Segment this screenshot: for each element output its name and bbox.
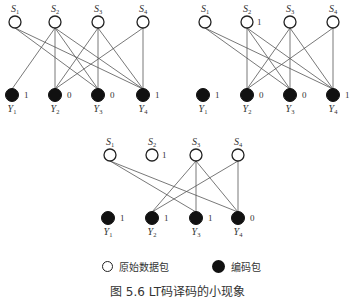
encoded-node-value: 1	[24, 90, 29, 100]
encoded-node-value: 0	[110, 90, 115, 100]
encoded-packet-circle-icon	[6, 89, 19, 102]
encoded-node-y1: Y11	[102, 212, 125, 239]
encoded-node-label: Y2	[148, 226, 157, 238]
encoded-node-y3: Y30	[92, 89, 116, 116]
encoded-node-value: 1	[164, 213, 169, 223]
encoded-node-label: Y4	[139, 103, 149, 115]
encoded-packet-circle-icon	[327, 89, 340, 102]
encoded-packet-circle-icon	[241, 89, 254, 102]
edge	[152, 161, 238, 212]
encoded-node-value: 0	[67, 90, 72, 100]
legend-encoded-label: 编码包	[231, 259, 261, 274]
source-node-s2: S2	[49, 3, 61, 28]
encoded-node-y1: Y11	[6, 89, 29, 116]
source-packet-circle-icon	[190, 149, 202, 161]
graph-stage-1: S1S2S3S4Y11Y20Y30Y41	[6, 3, 160, 115]
source-packet-circle-icon	[284, 16, 296, 28]
encoded-packet-circle-icon	[232, 212, 245, 225]
source-node-label: S1	[106, 136, 114, 148]
source-node-label: S1	[201, 3, 209, 15]
encoded-node-value: 1	[345, 90, 350, 100]
encoded-node-y3: Y31	[190, 212, 213, 239]
encoded-packet-icon	[212, 260, 225, 273]
edge	[15, 28, 98, 89]
encoded-packet-circle-icon	[49, 89, 62, 102]
encoded-packet-circle-icon	[137, 89, 150, 102]
figure-caption: 图 5.6 LT码译码的小现象	[110, 282, 245, 299]
edge	[98, 28, 143, 89]
encoded-node-label: Y4	[329, 103, 339, 115]
encoded-node-label: Y3	[192, 226, 201, 238]
source-packet-circle-icon	[241, 16, 253, 28]
graph-stage-2: S1S21S3S4Y11Y20Y30Y41	[197, 3, 350, 115]
source-node-s1: S1	[104, 136, 116, 161]
encoded-packet-circle-icon	[190, 212, 203, 225]
encoded-node-label: Y1	[8, 103, 17, 115]
encoded-node-value: 0	[259, 90, 264, 100]
source-packet-circle-icon	[137, 16, 149, 28]
encoded-node-y2: Y20	[241, 89, 265, 116]
encoded-node-value: 0	[250, 213, 255, 223]
source-node-s3: S3	[190, 136, 202, 161]
edge	[205, 28, 290, 89]
source-node-label: S3	[192, 136, 200, 148]
source-packet-circle-icon	[92, 16, 104, 28]
edge	[196, 161, 238, 212]
source-node-s4: S4	[232, 136, 244, 161]
encoded-node-y3: Y30	[284, 89, 308, 116]
encoded-node-y2: Y21	[146, 212, 169, 239]
source-node-label: S4	[139, 3, 148, 15]
encoded-node-value: 1	[155, 90, 160, 100]
edge	[290, 28, 333, 89]
encoded-node-label: Y3	[94, 103, 103, 115]
source-node-label: S3	[94, 3, 102, 15]
encoded-node-value: 1	[120, 213, 125, 223]
encoded-node-label: Y1	[104, 226, 113, 238]
encoded-packet-circle-icon	[146, 212, 159, 225]
source-packet-circle-icon	[146, 149, 158, 161]
source-node-s1: S1	[199, 3, 211, 28]
source-node-value: 1	[162, 150, 167, 160]
source-node-label: S3	[286, 3, 294, 15]
source-packet-circle-icon	[232, 149, 244, 161]
source-node-value: 1	[257, 17, 262, 27]
legend-source: 原始数据包	[102, 259, 169, 274]
encoded-packet-circle-icon	[92, 89, 105, 102]
encoded-packet-circle-icon	[102, 212, 115, 225]
edge	[205, 28, 333, 89]
source-node-s4: S4	[137, 3, 149, 28]
encoded-node-y4: Y40	[232, 212, 256, 239]
encoded-node-y4: Y41	[327, 89, 350, 116]
encoded-node-value: 0	[302, 90, 307, 100]
source-node-s2: S21	[241, 3, 262, 28]
source-packet-circle-icon	[199, 16, 211, 28]
source-node-s1: S1	[9, 3, 21, 28]
source-node-s3: S3	[284, 3, 296, 28]
encoded-node-y1: Y11	[197, 89, 220, 116]
encoded-node-value: 1	[215, 90, 220, 100]
edge	[110, 161, 196, 212]
source-packet-icon	[102, 261, 113, 272]
source-packet-circle-icon	[49, 16, 61, 28]
edge	[152, 161, 196, 212]
legend-encoded: 编码包	[212, 259, 261, 274]
source-node-label: S2	[148, 136, 156, 148]
source-node-label: S4	[234, 136, 243, 148]
source-node-label: S2	[51, 3, 59, 15]
source-packet-circle-icon	[104, 149, 116, 161]
legend-source-label: 原始数据包	[119, 259, 169, 274]
source-node-label: S4	[329, 3, 338, 15]
edge	[15, 28, 143, 89]
encoded-node-label: Y3	[286, 103, 295, 115]
source-node-s2: S21	[146, 136, 167, 161]
source-packet-circle-icon	[9, 16, 21, 28]
source-node-label: S1	[11, 3, 19, 15]
source-node-label: S2	[243, 3, 251, 15]
encoded-node-label: Y2	[243, 103, 252, 115]
encoded-node-y4: Y41	[137, 89, 160, 116]
graph-stage-3: S1S21S3S4Y11Y21Y31Y40	[102, 136, 256, 238]
encoded-node-label: Y1	[199, 103, 208, 115]
encoded-packet-circle-icon	[197, 89, 210, 102]
encoded-packet-circle-icon	[284, 89, 297, 102]
